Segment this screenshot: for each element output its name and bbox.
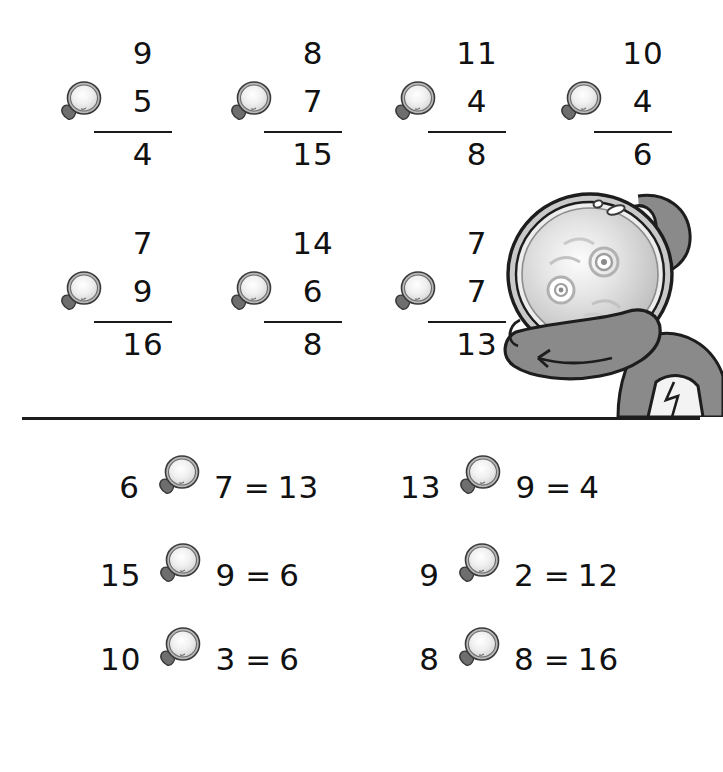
vertical-problem: 7 9 16 xyxy=(62,228,212,378)
second-operand: 7 xyxy=(214,469,235,505)
magnifying-glass-icon xyxy=(388,266,440,318)
answer-rule xyxy=(428,131,506,133)
magnifying-glass-icon xyxy=(153,622,205,674)
top-number: 10 xyxy=(620,38,666,69)
answer-rule xyxy=(94,321,172,323)
magnifying-glass-icon xyxy=(452,538,504,590)
result: 16 xyxy=(578,641,619,677)
second-operand: 8 xyxy=(514,641,535,677)
magnifying-glass-icon xyxy=(54,266,106,318)
answer-number: 6 xyxy=(620,139,666,170)
second-operand: 2 xyxy=(514,557,535,593)
bottom-number: 5 xyxy=(120,86,166,117)
magnifying-glass-icon xyxy=(388,76,440,128)
equals-sign: = xyxy=(236,641,279,677)
top-number: 14 xyxy=(290,228,336,259)
horizontal-problem: 13 9=4 xyxy=(400,450,600,536)
bottom-number: 4 xyxy=(620,86,666,117)
answer-rule xyxy=(428,321,506,323)
vertical-problem: 11 4 8 xyxy=(396,38,546,188)
equation-tail: 9=4 xyxy=(515,450,599,503)
result: 13 xyxy=(278,469,319,505)
equals-sign: = xyxy=(235,469,278,505)
second-operand: 9 xyxy=(515,469,536,505)
equation-tail: 7=13 xyxy=(214,450,319,503)
bottom-number: 9 xyxy=(120,276,166,307)
answer-rule xyxy=(594,131,672,133)
magnifying-glass-icon xyxy=(153,538,205,590)
top-number: 11 xyxy=(454,38,500,69)
result: 12 xyxy=(578,557,619,593)
answer-number: 16 xyxy=(120,329,166,360)
answer-number: 15 xyxy=(290,139,336,170)
magnifying-glass-icon xyxy=(554,76,606,128)
magnifying-glass-icon xyxy=(224,76,276,128)
answer-number: 13 xyxy=(454,329,500,360)
section-divider xyxy=(22,417,700,420)
answer-number: 8 xyxy=(290,329,336,360)
magnifying-glass-icon xyxy=(453,450,505,502)
first-operand: 9 xyxy=(400,538,440,591)
vertical-problem: 9 5 4 xyxy=(62,38,212,188)
horizontal-problem: 10 3=6 xyxy=(100,622,300,708)
equation-tail: 3=6 xyxy=(215,622,299,675)
vertical-problem: 14 6 8 xyxy=(232,228,382,378)
bottom-number: 4 xyxy=(454,86,500,117)
bottom-number: 7 xyxy=(454,276,500,307)
bottom-number: 6 xyxy=(290,276,336,307)
vertical-problem: 8 7 15 xyxy=(232,38,382,188)
horizontal-problem: 15 9=6 xyxy=(100,538,300,624)
magnifying-glass-icon xyxy=(152,450,204,502)
magnifying-glass-icon xyxy=(224,266,276,318)
equals-sign: = xyxy=(536,469,579,505)
equation-tail: 9=6 xyxy=(215,538,299,591)
bottom-number: 7 xyxy=(290,86,336,117)
horizontal-problems-section: 6 7=13 15 9=6 10 xyxy=(0,430,723,772)
top-number: 8 xyxy=(290,38,336,69)
top-number: 9 xyxy=(120,38,166,69)
equals-sign: = xyxy=(535,641,578,677)
horizontal-problem: 6 7=13 xyxy=(100,450,319,536)
result: 6 xyxy=(279,557,300,593)
vertical-problem: 10 4 6 xyxy=(562,38,712,188)
first-operand: 13 xyxy=(400,450,441,503)
horizontal-problem: 9 2=12 xyxy=(400,538,619,624)
second-operand: 9 xyxy=(215,557,236,593)
magnifying-glass-icon xyxy=(452,622,504,674)
top-number: 7 xyxy=(120,228,166,259)
first-operand: 8 xyxy=(400,622,440,675)
first-operand: 6 xyxy=(100,450,140,503)
second-operand: 3 xyxy=(215,641,236,677)
answer-number: 8 xyxy=(454,139,500,170)
answer-rule xyxy=(264,131,342,133)
first-operand: 10 xyxy=(100,622,141,675)
vertical-problems-section: 9 5 4 8 xyxy=(0,0,723,418)
horizontal-problem: 8 8=16 xyxy=(400,622,619,708)
result: 4 xyxy=(579,469,600,505)
magnifying-glass-icon xyxy=(54,76,106,128)
answer-rule xyxy=(264,321,342,323)
equals-sign: = xyxy=(236,557,279,593)
top-number: 7 xyxy=(454,228,500,259)
equals-sign: = xyxy=(535,557,578,593)
equation-tail: 8=16 xyxy=(514,622,619,675)
first-operand: 15 xyxy=(100,538,141,591)
answer-rule xyxy=(94,131,172,133)
result: 6 xyxy=(279,641,300,677)
answer-number: 4 xyxy=(120,139,166,170)
detective-illustration xyxy=(498,186,723,417)
equation-tail: 2=12 xyxy=(514,538,619,591)
